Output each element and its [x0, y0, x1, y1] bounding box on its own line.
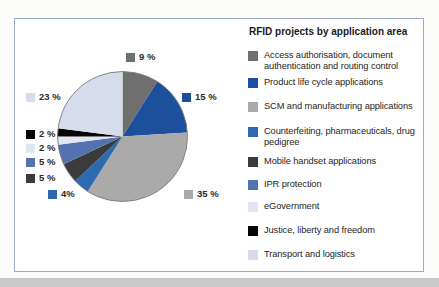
pct-text: 9 %: [139, 52, 155, 62]
legend-label: Counterfeiting, pharmaceuticals, drug pe…: [264, 126, 424, 148]
mobile-handset-swatch-icon: [26, 174, 35, 183]
legend-label: eGovernment: [264, 201, 424, 212]
pie-slice-8: [58, 71, 122, 136]
legend-label: Access authorisation, document authentic…: [264, 50, 424, 72]
justice-swatch-icon: [26, 130, 35, 139]
pct-label-transport: 23 %: [26, 92, 61, 102]
access-legend-swatch-icon: [248, 51, 258, 61]
pct-label-mobile-handset: 5 %: [26, 173, 55, 183]
legend-item-ipr: IPR protection: [248, 180, 424, 190]
legend-item-justice: Justice, liberty and freedom: [248, 226, 424, 236]
legend-item-transport: Transport and logistics: [248, 250, 424, 260]
egovernment-legend-swatch-icon: [248, 202, 258, 212]
legend-item-access: Access authorisation, document authentic…: [248, 51, 424, 72]
legend-item-egovernment: eGovernment: [248, 202, 424, 212]
pct-text: 5 %: [39, 173, 55, 183]
transport-swatch-icon: [26, 93, 35, 102]
ipr-swatch-icon: [26, 158, 35, 167]
counterfeiting-swatch-icon: [48, 190, 57, 199]
legend-label: Justice, liberty and freedom: [264, 225, 424, 236]
legend-item-mobile-handset: Mobile handset applications: [248, 157, 424, 167]
product-life-cycle-swatch-icon: [182, 93, 191, 102]
pct-text: 2 %: [39, 143, 55, 153]
pct-text: 4%: [61, 189, 75, 199]
pct-label-ipr: 5 %: [26, 157, 55, 167]
legend-label: Product life cycle applications: [264, 77, 424, 88]
legend-label: Transport and logistics: [264, 249, 424, 260]
legend-label: IPR protection: [264, 179, 424, 190]
figure-page: 9 % 15 % 35 % 4% 5 % 5 % 2 % 2 % 23 % RF…: [0, 0, 439, 287]
legend-item-counterfeiting: Counterfeiting, pharmaceuticals, drug pe…: [248, 127, 424, 148]
legend-label: Mobile handset applications: [264, 156, 424, 167]
pct-label-justice: 2 %: [26, 129, 55, 139]
pct-text: 5 %: [39, 157, 55, 167]
pct-label-egovernment: 2 %: [26, 143, 55, 153]
chart-title: RFID projects by application area: [249, 26, 421, 38]
legend-item-scm: SCM and manufacturing applications: [248, 102, 424, 112]
product-life-cycle-legend-swatch-icon: [248, 78, 258, 88]
pct-label-counterfeiting: 4%: [48, 189, 75, 199]
pct-text: 15 %: [195, 92, 217, 102]
pct-text: 2 %: [39, 129, 55, 139]
pct-text: 23 %: [39, 92, 61, 102]
pct-text: 35 %: [197, 189, 219, 199]
transport-legend-swatch-icon: [248, 250, 258, 260]
mobile-handset-legend-swatch-icon: [248, 157, 258, 167]
scm-swatch-icon: [184, 190, 193, 199]
egovernment-swatch-icon: [26, 144, 35, 153]
legend-item-product-life-cycle: Product life cycle applications: [248, 78, 424, 88]
pct-label-access: 9 %: [126, 52, 155, 62]
legend-label: SCM and manufacturing applications: [264, 101, 424, 112]
scm-legend-swatch-icon: [248, 102, 258, 112]
pct-label-scm: 35 %: [184, 189, 219, 199]
pct-label-product-life-cycle: 15 %: [182, 92, 217, 102]
access-swatch-icon: [126, 53, 135, 62]
counterfeiting-legend-swatch-icon: [248, 127, 258, 137]
ipr-legend-swatch-icon: [248, 180, 258, 190]
justice-legend-swatch-icon: [248, 226, 258, 236]
